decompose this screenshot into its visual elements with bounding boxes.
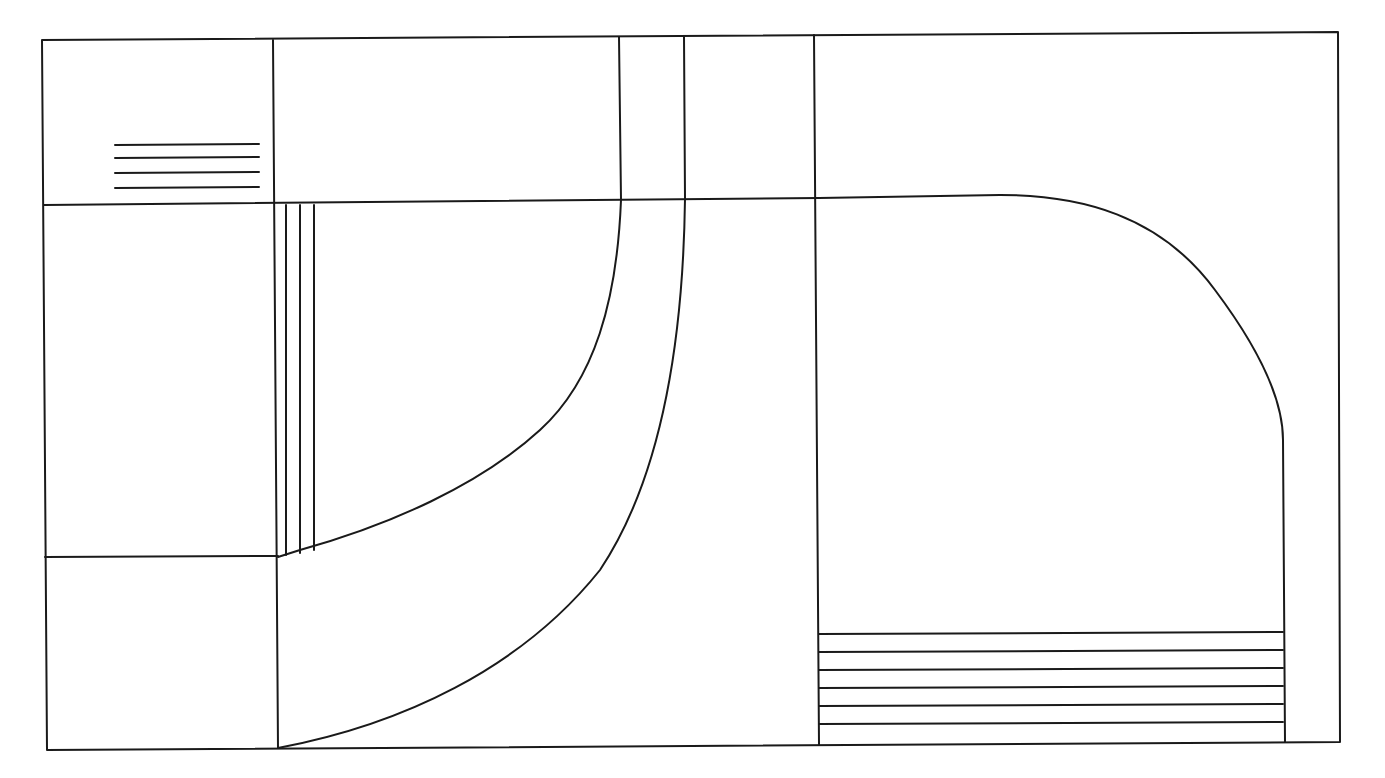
curved-walls xyxy=(278,195,1285,748)
stair-tread xyxy=(115,157,259,158)
stair-tread xyxy=(115,172,259,173)
outer-frame xyxy=(42,32,1340,750)
inner-curve xyxy=(278,200,621,557)
vertical-wall-b xyxy=(684,36,685,199)
vertical-wall-center xyxy=(814,35,819,745)
stair-tread xyxy=(819,668,1283,670)
stairs xyxy=(115,144,1283,724)
outer-frame-outline xyxy=(42,32,1340,750)
stairs-vertical-strip xyxy=(286,205,314,555)
horizontal-wall-lower-left xyxy=(45,556,278,557)
stair-tread xyxy=(115,144,259,145)
stairs-lower-right xyxy=(819,632,1283,724)
vertical-wall-a xyxy=(619,37,621,200)
stair-tread xyxy=(819,722,1283,724)
floor-plan-diagram xyxy=(0,0,1385,778)
stairs-upper-left xyxy=(115,144,259,188)
stair-tread xyxy=(819,650,1283,652)
stair-tread xyxy=(819,632,1283,634)
right-curve xyxy=(819,195,1285,742)
vertical-wall-left xyxy=(273,40,278,748)
stair-tread xyxy=(115,187,259,188)
stair-tread xyxy=(819,686,1283,688)
walls xyxy=(44,35,819,748)
horizontal-wall-upper xyxy=(44,198,819,205)
stair-tread xyxy=(819,704,1283,706)
